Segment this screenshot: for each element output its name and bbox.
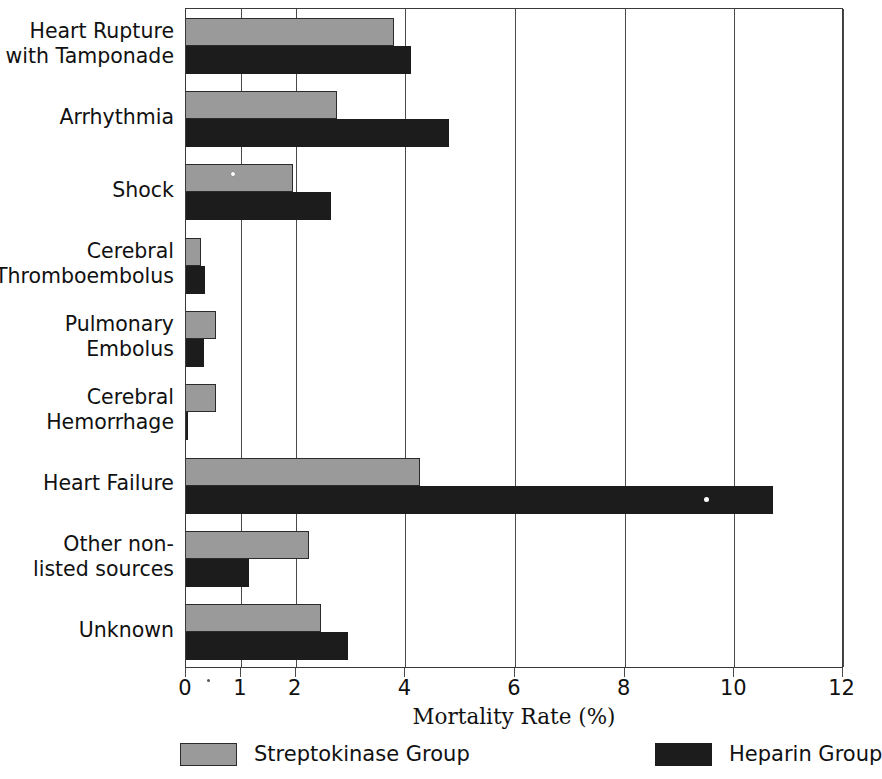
bar-heparin-8 [186,632,348,660]
x-tick-label-10: 10 [720,676,747,700]
chart-legend: Streptokinase GroupHeparin Group [0,742,854,776]
bar-heparin-1 [186,119,449,147]
legend-label-0: Streptokinase Group [254,742,470,766]
legend-entry-1: Heparin Group [655,742,882,766]
gridline-8 [625,9,626,667]
bar-heparin-2 [186,192,331,220]
bar-streptokinase-5 [186,384,216,412]
category-label-8: Unknown [79,618,174,643]
category-label-6: Heart Failure [43,471,174,496]
x-axis-title: Mortality Rate (%) [185,704,843,729]
bar-streptokinase-8 [186,604,321,632]
legend-entry-0: Streptokinase Group [180,742,470,766]
scan-speck [207,679,210,682]
gridline-10 [734,9,735,667]
category-label-2: Shock [112,178,174,203]
bar-heparin-7 [186,559,249,587]
legend-swatch-streptokinase [180,743,237,766]
x-tick-label-4: 4 [398,676,411,700]
x-tick-label-1: 1 [233,676,246,700]
category-label-4: Pulmonary Embolus [65,312,174,362]
bar-heparin-6 [186,486,773,514]
category-label-3: Cerebral Thromboembolus [0,239,174,289]
bar-streptokinase-4 [186,311,216,339]
bar-streptokinase-1 [186,91,337,119]
gridline-4 [405,9,406,667]
gridline-12 [843,9,844,667]
gridline-6 [515,9,516,667]
bar-streptokinase-3 [186,238,201,266]
x-tick-label-12: 12 [828,676,855,700]
legend-swatch-heparin [655,743,712,766]
x-tick-label-0: 0 [178,676,191,700]
bar-heparin-0 [186,46,411,74]
category-label-0: Heart Rupture with Tamponade [6,19,174,69]
bar-streptokinase-0 [186,18,394,46]
x-tick-label-8: 8 [617,676,630,700]
x-tick-label-2: 2 [288,676,301,700]
bar-heparin-3 [186,266,205,294]
plot-area [185,8,843,668]
scan-artifact-speck [704,497,709,502]
bar-heparin-4 [186,339,204,367]
category-label-1: Arrhythmia [59,105,174,130]
category-label-7: Other non- listed sources [33,532,174,582]
bar-streptokinase-6 [186,458,420,486]
x-tick-label-6: 6 [507,676,520,700]
bar-heparin-5 [186,412,188,440]
legend-label-1: Heparin Group [729,742,882,766]
bar-streptokinase-2 [186,164,293,192]
category-label-5: Cerebral Hemorrhage [46,385,174,435]
bar-streptokinase-7 [186,531,309,559]
